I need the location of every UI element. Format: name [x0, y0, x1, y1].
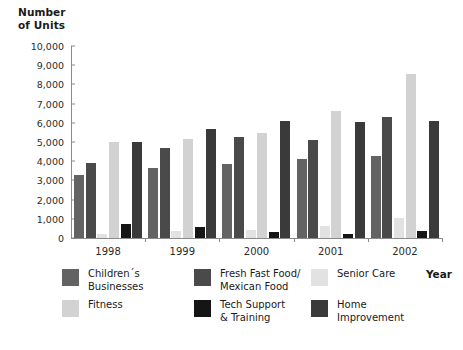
bar — [160, 148, 170, 238]
bar — [132, 142, 142, 238]
y-axis-tick-label: 9,000 — [37, 60, 71, 71]
legend-item[interactable]: Tech Support& Training — [194, 299, 311, 330]
bar — [343, 234, 353, 238]
bar-group — [294, 46, 368, 238]
bar — [222, 164, 232, 238]
bar — [320, 226, 330, 238]
legend-item-label: Tech Support& Training — [220, 299, 285, 324]
plot-area: 10,0009,0008,0007,0006,0005,0004,0003,00… — [71, 46, 442, 238]
bar — [308, 140, 318, 238]
legend-label-line1: Children´s — [88, 268, 143, 281]
bar — [269, 232, 279, 238]
y-axis-title: Number of Units — [18, 6, 66, 31]
bar — [355, 122, 365, 238]
x-axis-tick-mark — [442, 238, 443, 242]
bar — [371, 156, 381, 238]
bar-group — [145, 46, 219, 238]
bar-group — [368, 46, 442, 238]
legend-item[interactable]: Fresh Fast Food/Mexican Food — [194, 268, 311, 299]
x-axis-tick-mark — [368, 238, 369, 242]
bar — [171, 231, 181, 238]
legend-label-line2: & Training — [220, 312, 285, 325]
x-axis-tick-label: 2002 — [392, 246, 417, 257]
x-axis-title: Year — [426, 268, 452, 280]
y-axis-tick-label: 6,000 — [37, 117, 71, 128]
legend-item[interactable]: Fitness — [62, 299, 194, 330]
legend-item-label: Fitness — [88, 299, 123, 312]
y-axis-tick-label: 0 — [58, 233, 71, 244]
bar — [257, 133, 267, 238]
legend-swatch-icon — [194, 269, 211, 286]
bar — [86, 163, 96, 238]
legend-swatch-icon — [62, 300, 79, 317]
legend-label-line1: Fresh Fast Food/ — [220, 268, 300, 281]
bar — [417, 231, 427, 238]
bar-chart: Number of Units 10,0009,0008,0007,0006,0… — [0, 0, 463, 350]
legend-item-label: Fresh Fast Food/Mexican Food — [220, 268, 300, 293]
bar — [280, 121, 290, 238]
y-axis-title-line1: Number — [18, 6, 66, 19]
chart-legend: Children´sBusinessesFresh Fast Food/Mexi… — [62, 268, 422, 330]
x-axis-tick-mark — [294, 238, 295, 242]
bar — [195, 227, 205, 238]
y-axis-title-line2: of Units — [18, 19, 66, 32]
bar-group — [219, 46, 293, 238]
x-axis-line — [71, 238, 443, 239]
y-axis-tick-label: 1,000 — [37, 213, 71, 224]
bar — [148, 168, 158, 238]
x-axis-tick-mark — [219, 238, 220, 242]
legend-label-line2: Businesses — [88, 281, 143, 294]
bar — [109, 142, 119, 238]
x-axis-tick-label: 2001 — [318, 246, 343, 257]
bar-group — [71, 46, 145, 238]
bar — [394, 218, 404, 238]
legend-label-line1: Tech Support — [220, 299, 285, 312]
x-axis-tick-label: 1998 — [95, 246, 120, 257]
bar — [406, 74, 416, 238]
legend-swatch-icon — [194, 300, 211, 317]
bar — [74, 175, 84, 238]
y-axis-tick-label: 10,000 — [31, 41, 71, 52]
legend-label-line1: Fitness — [88, 299, 123, 312]
y-axis-tick-label: 4,000 — [37, 156, 71, 167]
y-axis-tick-label: 7,000 — [37, 98, 71, 109]
y-axis-tick-label: 5,000 — [37, 137, 71, 148]
y-axis-tick-label: 8,000 — [37, 79, 71, 90]
legend-label-line2: Mexican Food — [220, 281, 300, 294]
x-axis-tick-mark — [145, 238, 146, 242]
bar — [382, 117, 392, 238]
legend-item-label: Senior Care — [337, 268, 395, 281]
x-axis-tick-label: 1999 — [170, 246, 195, 257]
legend-label-line1: Home — [337, 299, 404, 312]
legend-item[interactable]: Children´sBusinesses — [62, 268, 194, 299]
legend-swatch-icon — [311, 300, 328, 317]
legend-item-label: Children´sBusinesses — [88, 268, 143, 293]
legend-swatch-icon — [311, 269, 328, 286]
legend-label-line1: Senior Care — [337, 268, 395, 281]
legend-label-line2: Improvement — [337, 312, 404, 325]
y-axis-tick-label: 2,000 — [37, 194, 71, 205]
y-axis-tick-label: 3,000 — [37, 175, 71, 186]
bar — [97, 234, 107, 238]
bar — [234, 137, 244, 238]
legend-item-label: HomeImprovement — [337, 299, 404, 324]
bar — [183, 139, 193, 238]
legend-item[interactable]: HomeImprovement — [311, 299, 422, 330]
x-axis-tick-label: 2000 — [244, 246, 269, 257]
bar — [206, 129, 216, 238]
bar — [297, 159, 307, 238]
legend-item[interactable]: Senior Care — [311, 268, 422, 299]
bar — [246, 230, 256, 238]
bar — [331, 111, 341, 238]
legend-swatch-icon — [62, 269, 79, 286]
bar — [429, 121, 439, 238]
bar — [121, 224, 131, 238]
